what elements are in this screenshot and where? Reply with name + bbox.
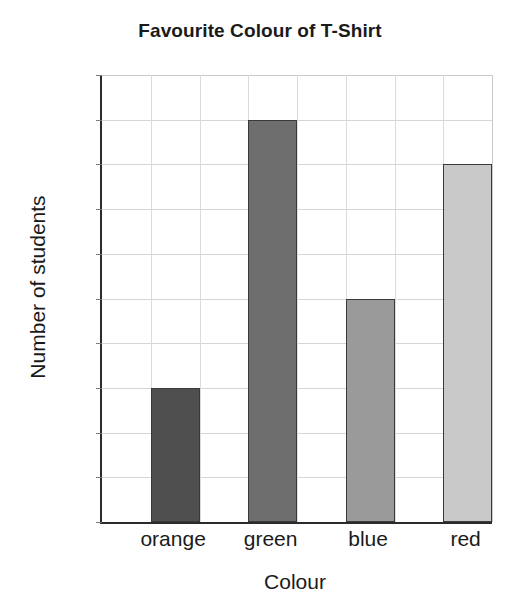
bar-blue — [346, 299, 395, 523]
x-axis-label: Colour — [100, 570, 490, 594]
y-tick-mark — [96, 209, 102, 210]
y-tick-mark — [96, 164, 102, 165]
y-tick-mark — [96, 254, 102, 255]
bar-orange — [151, 388, 200, 522]
chart-title: Favourite Colour of T-Shirt — [0, 20, 520, 42]
bar-chart-figure: Favourite Colour of T-Shirt Number of st… — [0, 0, 520, 611]
y-tick-mark — [96, 299, 102, 300]
bar-green — [248, 120, 297, 522]
x-tick-label-blue: blue — [319, 528, 417, 549]
bar-red — [443, 164, 492, 522]
x-tick-label-green: green — [222, 528, 320, 549]
y-tick-mark — [96, 120, 102, 121]
x-tick-label-red: red — [417, 528, 515, 549]
gridline-vertical — [297, 75, 298, 522]
plot-area: 012345678910 — [100, 75, 492, 524]
y-tick-mark — [96, 433, 102, 434]
x-tick-label-orange: orange — [124, 528, 222, 549]
y-tick-mark — [96, 75, 102, 76]
gridline-vertical — [395, 75, 396, 522]
y-tick-mark — [96, 522, 102, 523]
y-axis-label: Number of students — [26, 127, 50, 447]
gridline-vertical — [200, 75, 201, 522]
y-tick-mark — [96, 343, 102, 344]
gridline-vertical — [492, 75, 493, 522]
y-tick-mark — [96, 477, 102, 478]
y-tick-mark — [96, 388, 102, 389]
